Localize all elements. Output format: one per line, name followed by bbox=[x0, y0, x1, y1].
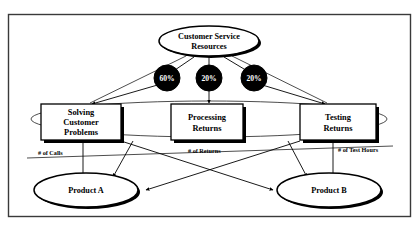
edge-label-number-of-returns: # of Returns bbox=[188, 147, 221, 154]
processing-label-line2: Returns bbox=[193, 124, 223, 133]
edge-testing-to-product-a-cross bbox=[146, 141, 300, 190]
solving-label-line2: Customer bbox=[63, 118, 99, 127]
product-b-label: Product B bbox=[311, 186, 347, 195]
processing-label-line1: Processing bbox=[188, 113, 227, 122]
edge-processing-to-product-a bbox=[113, 141, 133, 177]
diagram-canvas: Customer Service Resources 60% 20% 20% S… bbox=[0, 0, 419, 232]
product-a-label: Product A bbox=[68, 186, 104, 195]
testing-label-line1: Testing bbox=[325, 113, 352, 122]
edge-label-number-of-calls: # of Calls bbox=[38, 149, 63, 156]
activity-box-processing-returns[interactable] bbox=[171, 104, 243, 140]
edge-60-to-solving bbox=[92, 84, 161, 104]
driver-label-20-b: 20% bbox=[246, 74, 261, 83]
edge-processing-to-product-b bbox=[288, 141, 307, 177]
testing-label-line2: Returns bbox=[324, 124, 354, 133]
edge-20b-to-testing bbox=[259, 84, 325, 104]
solving-label-line3: Problems bbox=[64, 128, 99, 137]
diagram-svg: Customer Service Resources 60% 20% 20% S… bbox=[0, 0, 419, 232]
driver-label-20-a: 20% bbox=[201, 74, 216, 83]
resources-label-line1: Customer Service bbox=[178, 32, 240, 41]
node-customer-service-resources[interactable] bbox=[159, 26, 259, 56]
driver-label-60: 60% bbox=[159, 74, 174, 83]
edge-label-number-of-test-hours: # of Test Hours bbox=[338, 146, 379, 153]
solving-label-line1: Solving bbox=[68, 108, 95, 117]
resources-label-line2: Resources bbox=[191, 42, 226, 51]
activity-box-testing-returns[interactable] bbox=[300, 104, 376, 140]
